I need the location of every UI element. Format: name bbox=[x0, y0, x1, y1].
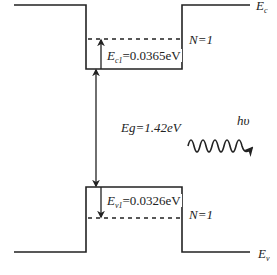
hole-level-label-value: =0.0326eV bbox=[123, 193, 181, 208]
electron-level-label-value: =0.0365eV bbox=[123, 48, 181, 63]
electron-state-label: N=1 bbox=[189, 33, 213, 46]
valence-band-label-main: E bbox=[258, 246, 266, 261]
conduction-band-label-sub: c bbox=[264, 6, 268, 15]
electron-level-label: Ec1=0.0365eV bbox=[106, 49, 182, 62]
electron-level-label-main: E bbox=[107, 48, 115, 63]
hole-state-label: N=1 bbox=[189, 208, 213, 221]
valence-band-label-sub: v bbox=[266, 254, 270, 263]
conduction-band-label: Ec bbox=[256, 0, 268, 12]
valence-band-label: Ev bbox=[258, 247, 270, 260]
conduction-band-label-main: E bbox=[256, 0, 264, 13]
photon-energy-label: hυ bbox=[237, 114, 249, 127]
photon-wave-icon bbox=[188, 140, 252, 152]
hole-level-label: Ev1=0.0326eV bbox=[106, 194, 182, 207]
bandgap-label: Eg=1.42eV bbox=[121, 121, 181, 134]
hole-level-label-main: E bbox=[107, 193, 115, 208]
electron-level-label-sub: c1 bbox=[115, 56, 123, 65]
band-diagram-canvas bbox=[0, 0, 277, 275]
hole-level-label-sub: v1 bbox=[115, 201, 123, 210]
